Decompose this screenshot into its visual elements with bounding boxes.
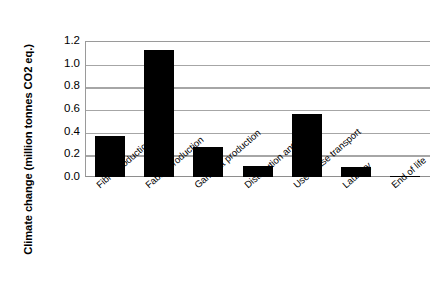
y-tick-label: 0.0 — [64, 171, 80, 183]
y-tick-label: 1.2 — [64, 35, 80, 47]
climate-change-bar-chart: Climate change (million tonnes CO2 eq.) … — [0, 0, 448, 299]
y-tick-label: 0.8 — [64, 80, 80, 92]
y-tick-label: 0.6 — [64, 103, 80, 115]
y-tick-label: 1.0 — [64, 58, 80, 70]
x-axis-category-labels: Fibre productionFabric productionGarment… — [85, 178, 448, 299]
y-tick-label: 0.4 — [64, 126, 80, 138]
y-axis-tick-labels: 1.21.00.80.60.40.20.0 — [50, 41, 80, 177]
y-tick-label: 0.2 — [64, 148, 80, 160]
